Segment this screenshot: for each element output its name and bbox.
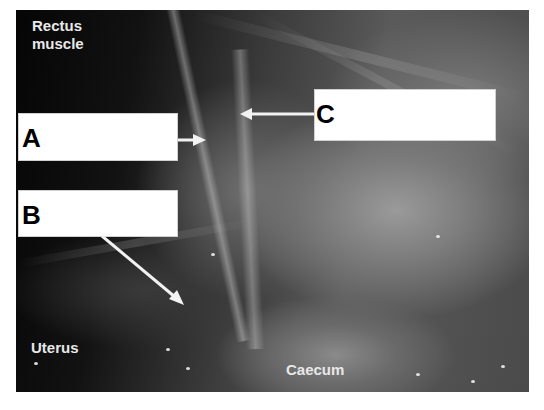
arrow-a-icon	[178, 134, 206, 146]
callout-arrows	[0, 0, 544, 410]
arrow-c-icon	[240, 108, 314, 120]
arrow-b-icon	[102, 236, 184, 305]
